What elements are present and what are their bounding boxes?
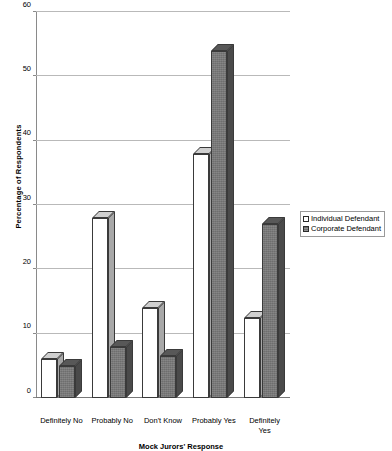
legend-item-label: Corporate Defendant <box>311 225 381 233</box>
legend-item-label: Individual Defendant <box>311 215 379 223</box>
bar[interactable] <box>193 147 209 398</box>
bar-side-face <box>227 44 234 398</box>
bar-front-face <box>193 154 209 398</box>
y-tick-label-0: 0 <box>27 387 31 395</box>
bar[interactable] <box>41 352 57 398</box>
y-tick-label-30: 30 <box>23 194 31 202</box>
y-axis-title: Percentage of Respondents <box>14 107 23 247</box>
chart-legend: Individual DefendantCorporate Defendant <box>300 211 385 237</box>
bar-side-face <box>75 359 82 398</box>
x-axis-category-label-line: Don't Know <box>138 416 189 426</box>
x-axis-category-label: Probably No <box>87 416 138 426</box>
bar-front-face <box>142 308 158 398</box>
bar-group <box>239 12 290 398</box>
bar-side-face <box>278 217 285 398</box>
bar[interactable] <box>211 44 227 398</box>
plot-area: 0102030405060 Definitely NoProbably NoDo… <box>36 12 290 398</box>
bar-front-face <box>262 224 278 398</box>
bar-group <box>36 12 87 398</box>
bar[interactable] <box>110 340 126 398</box>
bar-front-face <box>160 356 176 398</box>
x-axis-category-label-line: Definitely <box>239 416 290 426</box>
x-axis-category-label: Don't Know <box>138 416 189 426</box>
bar[interactable] <box>244 311 260 398</box>
bar-side-face <box>126 340 133 398</box>
y-tick-label-10: 10 <box>23 322 31 330</box>
bar[interactable] <box>160 349 176 398</box>
bar-front-face <box>244 318 260 398</box>
x-axis-category-label-line: Yes <box>239 426 290 436</box>
bar-group <box>87 12 138 398</box>
dark-square-icon <box>303 226 309 232</box>
bar-front-face <box>41 359 57 398</box>
x-axis-title: Mock Jurors' Response <box>36 442 326 451</box>
bar-group <box>188 12 239 398</box>
y-tick-label-40: 40 <box>23 129 31 137</box>
legend-item[interactable]: Individual Defendant <box>303 214 381 224</box>
bar-front-face <box>92 218 108 398</box>
bar-side-face <box>176 349 183 398</box>
x-axis-category-label: DefinitelyYes <box>239 416 290 435</box>
x-axis-category-label: Definitely No <box>36 416 87 426</box>
y-tick-label-20: 20 <box>23 258 31 266</box>
bar[interactable] <box>262 217 278 398</box>
y-tick-label-50: 50 <box>23 65 31 73</box>
bar-front-face <box>110 347 126 398</box>
bar-group <box>138 12 189 398</box>
legend-item[interactable]: Corporate Defendant <box>303 224 381 234</box>
bar-front-face <box>59 366 75 398</box>
bar[interactable] <box>142 301 158 398</box>
bar[interactable] <box>59 359 75 398</box>
x-axis-category-label: Probably Yes <box>188 416 239 426</box>
x-axis-category-label-line: Definitely No <box>36 416 87 426</box>
bar-front-face <box>211 51 227 398</box>
x-axis-category-label-line: Probably Yes <box>188 416 239 426</box>
y-tick-label-60: 60 <box>23 1 31 9</box>
white-square-icon <box>303 216 309 222</box>
bar[interactable] <box>92 211 108 398</box>
x-axis-category-label-line: Probably No <box>87 416 138 426</box>
